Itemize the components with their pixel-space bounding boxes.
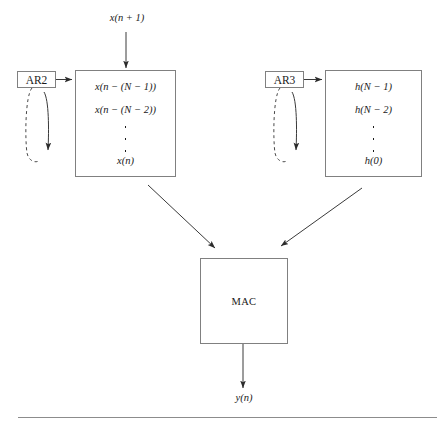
- bottom-divider: [18, 417, 437, 418]
- sample-register-to-mac-arrow: [148, 185, 215, 248]
- coefficient-register-to-mac-arrow: [281, 188, 362, 246]
- ar3-feedback-dashed-path: [274, 88, 288, 162]
- mac-datapath-diagram: x(n + 1) AR2 AR3 x(n − (N − 1)) x(n − (N…: [0, 0, 444, 429]
- ar2-feedback-arrow: [44, 92, 49, 150]
- connector-layer: [0, 0, 444, 429]
- ar2-feedback-dashed-path: [26, 88, 40, 162]
- ar3-feedback-arrow: [292, 92, 297, 150]
